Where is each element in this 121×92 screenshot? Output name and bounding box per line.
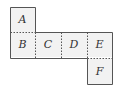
net-outline bbox=[0, 0, 121, 92]
cube-net-diagram: A B C D E F bbox=[0, 0, 121, 92]
